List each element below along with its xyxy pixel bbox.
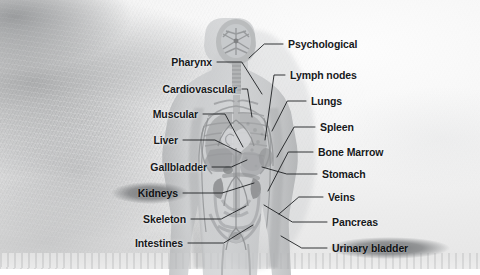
label-pharynx[interactable]: Pharynx (171, 57, 212, 68)
label-urinary-bladder[interactable]: Urinary bladder (332, 243, 408, 254)
leader-line-intestines (188, 225, 253, 243)
leader-line-lymph-nodes (265, 75, 285, 140)
leader-lines-layer (0, 0, 480, 275)
label-bone-marrow[interactable]: Bone Marrow (318, 147, 383, 158)
leader-line-gallbladder (212, 160, 247, 167)
label-intestines[interactable]: Intestines (135, 238, 183, 249)
leader-line-veins (279, 197, 323, 214)
label-muscular[interactable]: Muscular (153, 109, 198, 120)
leader-line-liver (183, 140, 241, 153)
label-pancreas[interactable]: Pancreas (332, 217, 378, 228)
label-veins[interactable]: Veins (328, 192, 355, 203)
leader-line-lungs (272, 101, 306, 131)
leader-line-pancreas (264, 205, 327, 222)
leader-line-muscular (203, 114, 243, 147)
label-spleen[interactable]: Spleen (320, 122, 354, 133)
label-lymph-nodes[interactable]: Lymph nodes (290, 70, 357, 81)
leader-line-urinary-bladder (281, 236, 327, 248)
label-psychological[interactable]: Psychological (288, 39, 357, 50)
leader-line-cardiovascular (242, 89, 252, 117)
leader-line-kidneys (183, 183, 254, 193)
leader-line-spleen (277, 127, 315, 157)
label-kidneys[interactable]: Kidneys (138, 188, 178, 199)
leader-line-psychological (249, 44, 283, 58)
anatomy-diagram-canvas: PharynxCardiovascularMuscularLiverGallbl… (0, 0, 480, 275)
leader-line-bone-marrow (268, 152, 313, 191)
label-stomach[interactable]: Stomach (322, 169, 366, 180)
leader-line-skeleton (191, 206, 246, 219)
label-liver[interactable]: Liver (153, 135, 178, 146)
label-gallbladder[interactable]: Gallbladder (150, 162, 207, 173)
label-cardiovascular[interactable]: Cardiovascular (163, 84, 237, 95)
label-skeleton[interactable]: Skeleton (143, 214, 186, 225)
leader-line-stomach (262, 167, 317, 174)
label-lungs[interactable]: Lungs (311, 96, 342, 107)
